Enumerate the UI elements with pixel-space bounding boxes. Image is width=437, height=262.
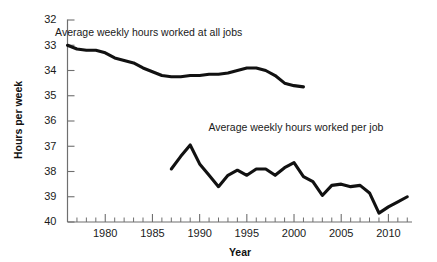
data-line-series-1 [68,45,304,87]
y-tick-label: 33 [44,39,56,51]
y-tick-label: 37 [44,140,56,152]
series-annotation-1: Average weekly hours worked at all jobs [55,26,242,38]
y-tick-label: 38 [44,165,56,177]
y-tick-label: 32 [44,13,56,25]
x-tick-label: 1985 [140,227,164,239]
x-tick-label: 1990 [187,227,211,239]
series-label-group: Average weekly hours worked at all jobsA… [55,26,383,133]
series-annotation-2: Average weekly hours worked per job [208,121,383,133]
y-axis-title: Hours per week [12,81,24,159]
x-tick-label: 2000 [282,227,306,239]
x-axis-title: Year [229,246,251,258]
y-tick-label: 39 [44,190,56,202]
y-tick-label: 35 [44,89,56,101]
data-line-series-2 [171,145,407,213]
x-tick-label: 1995 [235,227,259,239]
x-axis-tick-group: 1980198519901995200020052010 [77,214,407,239]
chart-container: 403938373635343332 198019851990199520002… [0,0,437,262]
line-chart: 403938373635343332 198019851990199520002… [0,0,437,262]
x-tick-label: 1980 [93,227,117,239]
y-tick-label: 34 [44,64,56,76]
y-tick-label: 40 [44,215,56,227]
y-tick-label: 36 [44,114,56,126]
x-tick-label: 2005 [329,227,353,239]
x-tick-label: 2010 [376,227,400,239]
